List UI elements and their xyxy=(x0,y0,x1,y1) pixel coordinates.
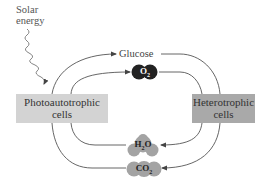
line-glucose-to-hetero xyxy=(161,54,220,94)
co2-label-subscript: 2 xyxy=(149,169,152,175)
photoautotrophic-cells-box: Photoautotrophic cells xyxy=(16,94,108,123)
photoautotrophic-label-line2: cells xyxy=(52,109,72,121)
solar-energy-line1: Solar xyxy=(16,4,44,15)
co2-label: CO2 xyxy=(129,163,159,175)
arrow-hetero-to-co2 xyxy=(162,123,220,168)
line-h2o-to-photo xyxy=(71,123,126,145)
heterotrophic-label-line2: cells xyxy=(213,109,233,121)
glucose-label: Glucose xyxy=(119,48,153,59)
solar-energy-wavy-arrow xyxy=(25,29,45,84)
solar-energy-line2: energy xyxy=(16,15,44,26)
heterotrophic-cells-box: Heterotrophic cells xyxy=(192,94,255,123)
h2o-label: H2O xyxy=(129,139,157,151)
photoautotrophic-label-line1: Photoautotrophic xyxy=(24,97,100,109)
solar-energy-label: Solar energy xyxy=(16,4,44,26)
line-co2-to-photo xyxy=(52,123,126,168)
o2-label-subscript: 2 xyxy=(147,72,150,78)
arrow-hetero-to-h2o xyxy=(161,123,202,145)
h2o-label-suffix: O xyxy=(145,139,152,149)
heterotrophic-label-line1: Heterotrophic xyxy=(193,97,254,109)
line-o2-to-hetero xyxy=(159,72,202,94)
h2o-label-base: H xyxy=(134,139,141,149)
o2-label-base: O xyxy=(140,66,147,76)
co2-label-base: CO xyxy=(136,163,150,173)
arrow-photo-to-glucose xyxy=(52,54,116,94)
o2-label: O2 xyxy=(132,66,158,78)
arrow-photo-to-o2 xyxy=(71,72,130,94)
